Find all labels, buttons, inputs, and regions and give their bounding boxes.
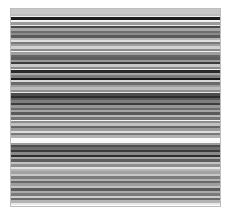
striped-image xyxy=(10,8,221,207)
stripe xyxy=(11,203,220,205)
